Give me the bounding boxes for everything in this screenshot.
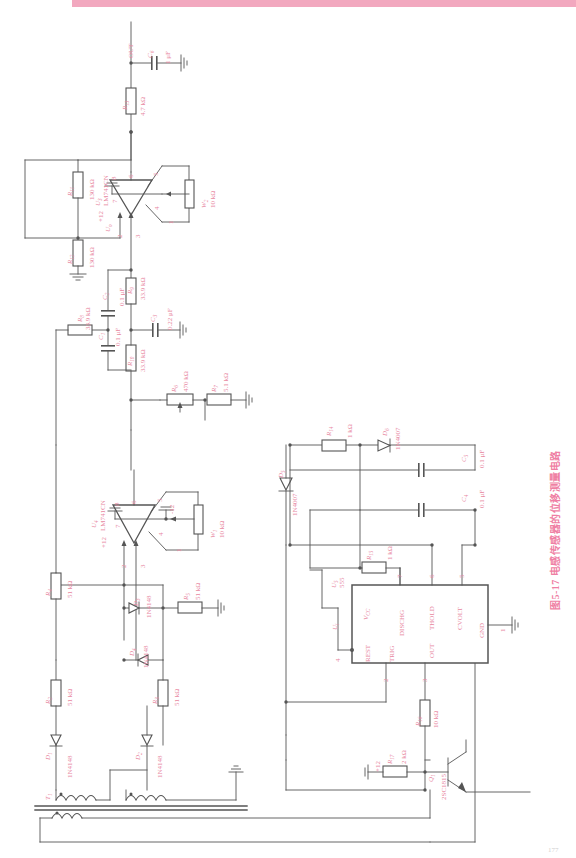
component-ref-R3: R3 [151,697,161,704]
component-value-R8: 33.9 kΩ [84,307,92,330]
opamp-U4-pin8: 8 [113,503,121,507]
timer-pin-rest-label: REST [364,645,372,662]
net-label-out: OUT [127,44,135,58]
component-ref-D6: D6 [381,428,391,436]
component-ref-R17: R17 [386,755,396,764]
component-ref-R7: R7 [210,385,220,392]
timer-pinnum-1: 1 [499,629,507,633]
timer-pin-cvolt-label: CVOLT [456,607,464,630]
component-ref-R16: R16 [414,717,424,726]
timer-type-555: 555 [338,578,346,589]
component-value-R13: 4.7 kΩ [139,97,147,116]
opamp-U3-pin3: 3 [134,235,142,239]
timer-pinnum-5: 5 [458,575,466,579]
opamp-U4-pin3: 3 [139,565,147,569]
component-ref-D1: D1 [44,752,54,760]
component-type-D5: 1N4007 [291,493,299,516]
component-value-R14: 1 kΩ [346,424,354,438]
component-value-R3: 51 kΩ [173,689,181,706]
component-value-C5: 0.1 μF [478,450,486,468]
opamp-U4-pin6: 6 [130,501,138,505]
page-folio: 177 [548,846,559,854]
opamp-U3-pin2: 2 [116,235,124,239]
component-ref-R10: R10 [126,357,136,366]
transistor-ref-Q1: Q1 [427,774,437,782]
opamp-type-U3: LM741CN [102,175,110,206]
component-value-C3: 0.22 μF [166,308,174,330]
component-ref-C3: C3 [149,315,159,322]
component-ref-R14: R14 [325,427,335,436]
component-ref-D5: D5 [277,470,287,478]
component-ref-R4: R4 [44,589,54,596]
opamp-U4-pin2: 2 [120,565,128,569]
opamp-U4-pin5: 5 [156,499,164,503]
component-value-R10: 33.9 kΩ [139,349,147,372]
component-value-R2: 51 kΩ [66,689,74,706]
opamp-U4-pin1: 1 [175,549,183,553]
component-ref-D2: D2 [134,752,144,760]
component-ref-C6: C6 [146,51,156,58]
timer-pin-gnd-label: GND [478,623,486,638]
component-value-R7: 5.1 kΩ [222,373,230,392]
component-value-R5: 51 kΩ [194,583,202,600]
component-ref-D3: D3 [132,598,142,606]
component-ref-R9: R9 [126,287,136,294]
component-value-R17: 2 kΩ [400,750,408,764]
timer-pin-trig-label: TRIG [388,646,396,662]
component-value-C2: 0.1 μF [118,288,126,306]
opamp-U3-pin1: 1 [167,221,175,225]
component-type-D2: 1N4148 [156,755,164,778]
transistor-type-Q1: 2SC1815 [440,774,448,800]
component-type-D6: 1N4007 [394,427,402,450]
component-type-D3: 1N4148 [145,595,153,618]
opamp-U3-pin6: 6 [127,175,135,179]
opamp-U3-pin8: 8 [110,177,118,181]
component-value-R6: 470 kΩ [182,371,190,392]
signal-label-Uo: Uo [104,224,114,232]
opamp-U3-pin7: 7 [111,200,119,204]
component-value-C6: 1 μF [164,51,172,64]
timer-pin-out-label: OUT [428,644,436,658]
component-ref-R12: R12 [66,255,76,264]
pot-value-W2: 10 kΩ [209,191,217,208]
component-ref-D4: D4 [128,648,138,656]
timer-pinnum-6: 6 [428,575,436,579]
component-value-R4: 51 kΩ [66,581,74,598]
timer-pin-vcc-label: VCC [362,609,372,620]
component-value-R12: 130 kΩ [88,247,96,268]
component-value-R11: 130 kΩ [88,179,96,200]
component-value-R16: 10 kΩ [432,711,440,728]
figure-caption: 图5-17 电感传感器的位移测量电路 [547,450,562,610]
opamp-U3-pin5: 5 [152,173,160,177]
timer-pin-thold-label: THOLD [428,606,436,630]
supply-pos-Q1: +12 [374,761,382,772]
schematic-canvas [0,0,576,858]
supply-pos-U3: +12 [97,211,105,222]
component-ref-C5: C5 [460,455,470,462]
opamp-type-U4: LM741CN [99,500,107,531]
component-ref-C1: C1 [97,333,107,340]
component-value-R15: 1 kΩ [386,546,394,560]
opamp-U4-pin4: 4 [157,533,165,537]
component-ref-R15: R15 [365,551,375,560]
timer-pin-dischg-label: DISCHG [398,610,406,636]
component-ref-R2: R2 [44,697,54,704]
timer-pinnum-4: 4 [334,659,342,663]
timer-pinnum-2: 2 [382,679,390,683]
supply-pos-U4: +12 [100,537,108,548]
component-type-D4: 1N4148 [142,645,150,668]
timer-pinnum-3: 3 [421,679,429,683]
supply-neg-U4: -12 [168,505,176,514]
opamp-U3-pin4: 4 [153,207,161,211]
opamp-U4-pin7: 7 [114,525,122,529]
component-value-C4: 0.1 μF [478,490,486,508]
pot-value-W1: 10 kΩ [218,521,226,538]
component-type-D1: 1N4148 [66,755,74,778]
component-value-R9: 33.9 kΩ [139,277,147,300]
transformer-ref-T1: T1 [44,794,54,801]
component-ref-R13: R13 [121,101,131,110]
component-ref-R5: R5 [182,593,192,600]
timer-pinnum-7: 7 [396,575,404,579]
component-ref-C2: C2 [101,293,111,300]
component-ref-R6: R6 [170,385,180,392]
